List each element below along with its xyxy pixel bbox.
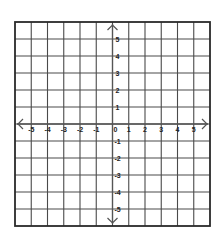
y-tick-label: -5 — [114, 206, 120, 213]
y-tick-label: 5 — [116, 36, 120, 43]
x-tick-label: 4 — [176, 126, 180, 133]
y-tick-label: -4 — [114, 189, 120, 196]
y-tick-label: 4 — [116, 53, 120, 60]
x-tick-label: 5 — [192, 126, 196, 133]
x-tick-label: 2 — [143, 126, 147, 133]
x-tick-label: -2 — [77, 126, 83, 133]
y-tick-label: -2 — [114, 155, 120, 162]
x-tick-label: -5 — [28, 126, 34, 133]
x-tick-label: 1 — [127, 126, 131, 133]
y-tick-label: 3 — [116, 70, 120, 77]
x-tick-label: 3 — [159, 126, 163, 133]
x-tick-label: 0 — [114, 126, 118, 133]
x-tick-label: -1 — [93, 126, 99, 133]
y-tick-label: 1 — [116, 104, 120, 111]
x-tick-label: -4 — [44, 126, 50, 133]
axes — [17, 24, 208, 224]
y-tick-label: -1 — [114, 138, 120, 145]
x-tick-label: -3 — [61, 126, 67, 133]
coordinate-plane: -5-4-3-2-1012345 54321-1-2-3-4-5 — [0, 0, 224, 242]
y-tick-label: 2 — [116, 87, 120, 94]
y-tick-label: -3 — [114, 172, 120, 179]
